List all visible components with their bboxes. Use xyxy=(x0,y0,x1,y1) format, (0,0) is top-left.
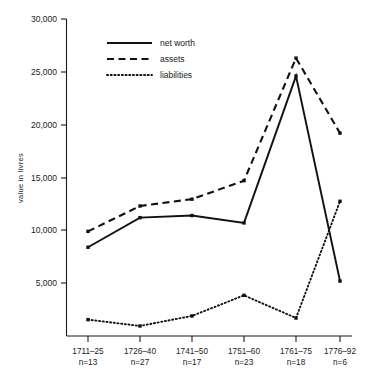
data-point-net-worth-1 xyxy=(138,216,141,219)
x-label-count-3: n=23 xyxy=(235,358,254,367)
series-line-assets xyxy=(88,58,340,231)
y-tick-label-10000: 10,000 xyxy=(31,225,57,235)
y-axis-title: value in livres xyxy=(16,153,25,203)
data-point-assets-0 xyxy=(86,230,89,233)
line-chart: 30,000 25,000 20,000 15,000 10,000 5,000… xyxy=(0,0,372,369)
data-point-net-worth-2 xyxy=(190,214,193,217)
data-point-assets-2 xyxy=(190,197,193,200)
x-label-period-0: 1711–25 xyxy=(72,347,104,356)
y-tick-label-20000: 20,000 xyxy=(31,120,57,130)
legend-label-net-worth: net worth xyxy=(160,38,195,48)
x-label-period-2: 1741–50 xyxy=(176,347,208,356)
data-point-liabilities-3 xyxy=(242,294,245,297)
x-label-period-5: 1776–92 xyxy=(324,347,356,356)
x-axis-labels: 1711–25 n=13 1726–40 n=27 1741–50 n=17 1… xyxy=(72,347,356,367)
y-tick-label-25000: 25,000 xyxy=(31,67,57,77)
series-line-net-worth xyxy=(88,76,340,281)
chart-legend: net worth assets liabilities xyxy=(107,38,195,80)
x-label-period-3: 1751–60 xyxy=(228,347,260,356)
x-label-period-4: 1761–75 xyxy=(280,347,312,356)
x-label-count-5: n=6 xyxy=(333,358,347,367)
y-axis-ticks xyxy=(61,19,67,283)
data-point-net-worth-0 xyxy=(86,246,89,249)
legend-label-liabilities: liabilities xyxy=(160,70,192,80)
data-point-liabilities-1 xyxy=(138,324,141,327)
x-label-count-1: n=27 xyxy=(131,358,150,367)
data-point-liabilities-4 xyxy=(294,316,297,319)
y-tick-label-15000: 15,000 xyxy=(31,173,57,183)
x-axis-ticks xyxy=(88,336,340,342)
x-label-count-2: n=17 xyxy=(183,358,202,367)
data-point-assets-1 xyxy=(138,204,141,207)
data-point-net-worth-4 xyxy=(294,74,297,77)
y-tick-label-30000: 30,000 xyxy=(31,14,57,24)
data-point-liabilities-2 xyxy=(190,314,193,317)
x-label-count-4: n=18 xyxy=(287,358,306,367)
chart-container: 30,000 25,000 20,000 15,000 10,000 5,000… xyxy=(0,0,372,369)
data-point-assets-3 xyxy=(242,179,245,182)
data-point-net-worth-3 xyxy=(242,221,245,224)
x-label-count-0: n=13 xyxy=(79,358,98,367)
x-label-period-1: 1726–40 xyxy=(124,347,156,356)
data-point-liabilities-0 xyxy=(86,318,89,321)
y-tick-label-5000: 5,000 xyxy=(36,278,58,288)
plot-area xyxy=(86,56,341,327)
legend-label-assets: assets xyxy=(160,54,185,64)
data-point-assets-4 xyxy=(294,56,297,59)
data-point-assets-5 xyxy=(338,131,341,134)
data-point-net-worth-5 xyxy=(338,279,341,282)
data-point-liabilities-5 xyxy=(338,200,341,203)
series-line-liabilities xyxy=(88,201,340,326)
